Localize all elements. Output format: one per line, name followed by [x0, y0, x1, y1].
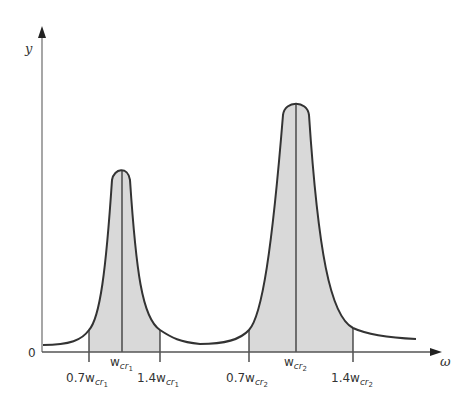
y-axis-arrow-icon [38, 26, 46, 38]
x-axis-label: ω [440, 354, 451, 369]
label-0.7-wcr1: 0.7wcr1 [66, 371, 108, 389]
resonance-diagram: y ω 0 wcr1 0.7wcr1 1.4wcr1 wcr2 0.7wcr2 … [0, 0, 472, 411]
label-1.4-wcr2: 1.4wcr2 [331, 371, 373, 389]
label-1.4-wcr1: 1.4wcr1 [137, 371, 179, 389]
label-wcr2: wcr2 [284, 355, 307, 373]
label-0.7-wcr2: 0.7wcr2 [226, 371, 268, 389]
y-axis-label: y [24, 41, 33, 56]
shaded-band-peak-2 [200, 104, 416, 352]
label-wcr1: wcr1 [110, 355, 133, 373]
origin-label: 0 [28, 346, 36, 360]
